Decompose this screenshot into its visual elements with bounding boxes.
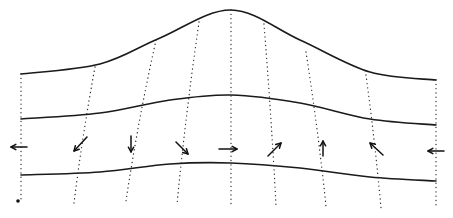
dotted-line-4	[177, 22, 199, 204]
middle-line-curve	[21, 95, 436, 125]
dotted-line-2	[74, 67, 95, 203]
dotted-line-7	[306, 52, 326, 206]
displacement-arrows	[11, 136, 444, 156]
dotted-line-3	[126, 40, 156, 201]
arrow-up-left-icon	[370, 143, 383, 155]
bottom-line-curve	[21, 163, 436, 181]
vertical-dotted-lines	[21, 10, 436, 208]
arrow-right-icon	[219, 146, 237, 151]
top-surface-curve	[21, 10, 436, 80]
arrow-left-icon	[11, 144, 27, 149]
arrow-up-right-icon	[268, 143, 281, 156]
arrow-down-right-icon	[176, 142, 188, 154]
marker-dot	[16, 199, 20, 203]
dotted-line-6	[264, 24, 276, 205]
material-lines	[21, 10, 436, 181]
dotted-line-8	[366, 75, 381, 208]
arrow-down-left-icon	[74, 137, 87, 151]
wave-particle-motion-diagram	[0, 0, 453, 218]
marker-dot	[16, 199, 20, 203]
arrow-down-icon	[128, 136, 133, 152]
arrow-up-icon	[320, 141, 325, 156]
